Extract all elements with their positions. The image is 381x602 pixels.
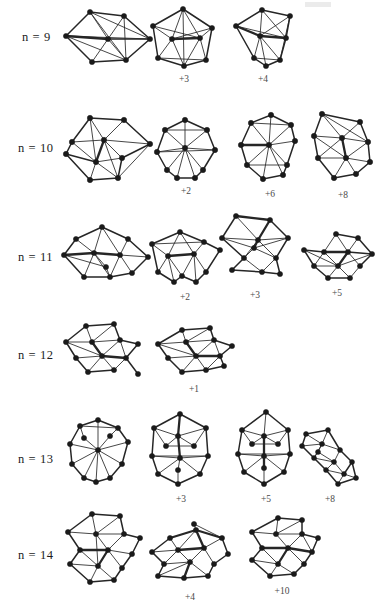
cluster-edge <box>168 254 194 256</box>
cluster-vertex <box>257 33 262 38</box>
cluster-vertex <box>93 159 98 164</box>
cluster-vertex <box>99 353 104 358</box>
cluster-edge <box>269 115 271 145</box>
cluster-structure <box>244 514 320 580</box>
cluster-edge <box>358 238 372 254</box>
cluster-vertex <box>326 428 331 433</box>
cluster-edge <box>98 450 110 478</box>
cluster-edge <box>190 548 204 562</box>
cluster-edge <box>152 428 154 456</box>
cluster-vertex <box>225 551 230 556</box>
cluster-structure <box>148 518 232 586</box>
cluster-edge <box>66 326 86 342</box>
cluster-structure <box>148 228 222 286</box>
cluster-edge <box>244 472 264 484</box>
cluster-structure <box>62 112 157 184</box>
cluster-vertex <box>325 275 330 280</box>
cluster-vertex <box>211 561 216 566</box>
cluster-edge <box>76 227 102 239</box>
cluster-edge <box>260 36 280 60</box>
cluster-vertex <box>119 155 124 160</box>
cluster-vertex <box>63 151 68 156</box>
cluster-vertex <box>203 57 208 62</box>
cluster-vertex <box>155 341 160 346</box>
cluster-vertex <box>301 247 306 252</box>
cluster-vertex <box>357 263 362 268</box>
cluster-vertex <box>285 235 290 240</box>
cluster-vertex <box>201 239 206 244</box>
cluster-edge <box>207 130 215 150</box>
cluster-edge <box>92 340 120 342</box>
cluster-structure <box>236 410 296 488</box>
cluster-vertex <box>207 325 212 330</box>
cluster-vertex <box>103 264 108 269</box>
cluster-vertex <box>291 571 296 576</box>
cluster-vertex <box>123 57 128 62</box>
cluster-edge <box>90 118 124 120</box>
cluster-edge <box>120 255 148 257</box>
cluster-edge <box>186 340 214 342</box>
cluster-edge <box>185 120 207 130</box>
cluster-vertex <box>205 573 210 578</box>
cluster-edge <box>158 474 178 484</box>
cluster-vertex <box>355 235 360 240</box>
cluster-edge <box>110 255 120 277</box>
cluster-vertex <box>169 36 174 41</box>
cluster-edge <box>154 428 178 436</box>
cluster-vertex <box>249 529 254 534</box>
cluster-graph <box>236 410 296 488</box>
cluster-edge <box>72 118 90 142</box>
cluster-vertex <box>268 112 273 117</box>
cluster-edge <box>165 120 185 130</box>
cluster-edge <box>124 120 150 144</box>
cluster-edge <box>306 430 328 434</box>
cluster-edge <box>368 142 370 162</box>
cluster-vertex <box>299 517 304 522</box>
cluster-vertex <box>357 119 362 124</box>
cluster-edge <box>90 118 96 162</box>
cluster-vertex <box>219 235 224 240</box>
cluster-edge <box>154 428 166 446</box>
cluster-vertex <box>267 217 272 222</box>
cluster-edge <box>70 444 98 450</box>
cluster-vertex <box>135 341 140 346</box>
cluster-vertex <box>149 453 154 458</box>
cluster-edge <box>108 16 124 39</box>
cluster-vertex <box>177 411 182 416</box>
cluster-edge <box>182 370 206 372</box>
cluster-vertex <box>91 250 96 255</box>
cluster-vertex <box>155 573 160 578</box>
cluster-vertex <box>155 55 160 60</box>
cluster-vertex <box>165 253 170 258</box>
cluster-edge <box>263 175 283 179</box>
cluster-edge <box>182 328 210 330</box>
cluster-vertex <box>248 120 253 125</box>
cluster-edge <box>80 550 98 566</box>
cluster-vertex <box>320 442 325 447</box>
cluster-vertex <box>191 521 196 526</box>
cluster-edge <box>251 123 291 125</box>
cluster-vertex <box>347 275 352 280</box>
cluster-edge <box>236 216 270 220</box>
cluster-edge <box>132 257 148 273</box>
cluster-edge <box>302 444 322 446</box>
cluster-edge <box>122 144 150 158</box>
structure-offset-label: +1 <box>189 384 199 394</box>
cluster-vertex <box>101 137 106 142</box>
cluster-vertex <box>175 481 180 486</box>
cluster-edge <box>251 123 269 145</box>
cluster-edge <box>236 216 258 240</box>
cluster-vertex <box>304 432 309 437</box>
cluster-edge <box>183 9 212 28</box>
cluster-edge <box>153 9 183 26</box>
cluster-edge <box>185 148 195 178</box>
cluster-vertex <box>123 355 128 360</box>
cluster-vertex <box>267 573 272 578</box>
cluster-graph <box>62 112 157 184</box>
cluster-vertex <box>251 55 256 60</box>
cluster-edge <box>236 10 262 26</box>
cluster-vertex <box>285 427 290 432</box>
cluster-vertex <box>301 561 306 566</box>
cluster-vertex <box>249 441 254 446</box>
